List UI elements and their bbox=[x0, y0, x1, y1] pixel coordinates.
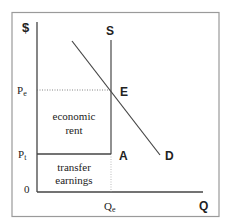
economic-rent-label-line2: rent bbox=[65, 124, 82, 136]
qe-label: Qe bbox=[104, 200, 116, 214]
pe-label: Pe bbox=[17, 84, 27, 98]
origin-label: 0 bbox=[24, 183, 30, 195]
equilibrium-point-label: E bbox=[120, 85, 128, 99]
qe-label-sub: e bbox=[112, 205, 116, 214]
transfer-point-label: A bbox=[119, 149, 128, 163]
pe-label-sub: e bbox=[23, 89, 27, 98]
pt-label: Pt bbox=[18, 148, 27, 162]
diagram-frame bbox=[12, 13, 219, 217]
transfer-earnings-label-line2: earnings bbox=[55, 174, 92, 186]
x-axis-label: Q bbox=[199, 199, 208, 213]
demand-curve bbox=[72, 41, 160, 155]
pt-label-sub: t bbox=[24, 153, 27, 162]
qe-label-main: Q bbox=[104, 200, 112, 212]
transfer-earnings-label-line1: transfer bbox=[57, 161, 91, 173]
economic-rent-diagram: $ Q 0 Pe Pt Qe S D E A economic rent tra… bbox=[0, 0, 230, 224]
supply-label: S bbox=[106, 24, 114, 38]
y-axis-label: $ bbox=[22, 20, 30, 35]
economic-rent-label-line1: economic bbox=[53, 110, 96, 122]
demand-label: D bbox=[165, 149, 174, 163]
